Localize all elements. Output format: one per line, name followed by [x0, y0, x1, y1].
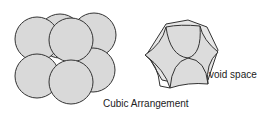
diagram-caption: Cubic Arrangement [103, 98, 189, 109]
void-space-label: void space [209, 69, 257, 80]
void-space-shape [145, 20, 218, 88]
sphere-stack [15, 13, 116, 104]
